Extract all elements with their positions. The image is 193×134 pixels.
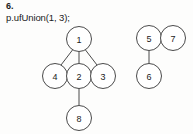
graph-edge-1-3	[86, 50, 98, 65]
node-label-7: 7	[170, 34, 175, 44]
graph-node-1: 1	[67, 27, 92, 52]
graph-node-4: 4	[43, 64, 68, 89]
figure-root: 14238576 6. p.ufUnion(1, 3);	[0, 0, 193, 134]
graph-edge-1-4	[61, 50, 73, 65]
nodes-group: 14238576	[43, 26, 186, 131]
graph-node-6: 6	[137, 64, 162, 89]
graph-node-5: 5	[137, 26, 162, 51]
graph-node-7: 7	[161, 26, 186, 51]
node-label-3: 3	[100, 72, 105, 82]
union-find-graph: 14238576	[0, 0, 193, 134]
node-label-8: 8	[76, 114, 81, 124]
node-label-6: 6	[146, 72, 151, 82]
graph-node-2: 2	[67, 64, 92, 89]
node-label-5: 5	[146, 34, 151, 44]
graph-node-3: 3	[91, 64, 116, 89]
graph-node-8: 8	[67, 106, 92, 131]
node-label-1: 1	[76, 35, 81, 45]
node-label-2: 2	[76, 72, 81, 82]
node-label-4: 4	[52, 72, 57, 82]
